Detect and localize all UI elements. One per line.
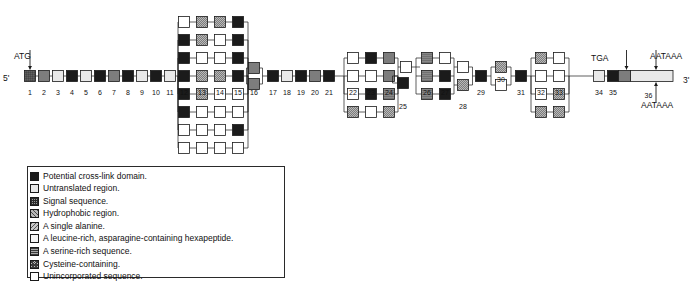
- exon-32-variant-2: [536, 71, 547, 82]
- branch-line: [344, 58, 348, 76]
- exon-number-31: 31: [512, 89, 530, 96]
- exon-12-variant-2: [179, 35, 190, 46]
- exon-25: [398, 78, 409, 89]
- exon-number-30: 30: [492, 76, 510, 83]
- exon-13-variant-2: [197, 35, 208, 46]
- exon-number-13: 13: [193, 89, 211, 96]
- exon-12-variant-3: [179, 53, 190, 64]
- exon-15-variant-1: [233, 17, 244, 28]
- exon-32-variant-1: [536, 53, 547, 64]
- exon-23-variant-1: [366, 53, 377, 64]
- legend-item-untranslated-region: Untranslated region.: [30, 183, 284, 195]
- exon-5: [81, 71, 92, 82]
- branch-line: [531, 58, 536, 76]
- exon-34: [594, 71, 605, 82]
- exon-13-variant-8: [197, 143, 208, 154]
- exon-number-22: 22: [344, 89, 362, 96]
- exon-12-variant-8: [179, 143, 190, 154]
- exon-13-variant-7: [197, 125, 208, 136]
- exon-28-variant-2: [458, 80, 469, 91]
- exon-31: [516, 71, 527, 82]
- exon-24-variant-1: [384, 53, 395, 64]
- exon-24-variant-4: [384, 107, 395, 118]
- exon-13-variant-1: [197, 17, 208, 28]
- exon-13-variant-6: [197, 107, 208, 118]
- exon-27-variant-2: [440, 71, 451, 82]
- legend-item-serine-rich-sequence: A serine-rich sequence.: [30, 246, 284, 258]
- exon-number-33: 33: [550, 89, 568, 96]
- exon-8: [123, 71, 134, 82]
- exon-13-variant-3: [197, 53, 208, 64]
- exon-17: [268, 71, 279, 82]
- branch-line: [565, 58, 570, 76]
- legend-label: Unincorporated sequence.: [43, 272, 143, 281]
- exon-10: [151, 71, 162, 82]
- branch-line: [260, 68, 263, 84]
- exon-number-27: 27: [436, 89, 454, 96]
- legend-item-unincorporated-sequence: Unincorporated sequence.: [30, 271, 284, 283]
- exon-18: [282, 71, 293, 82]
- exon-35: [608, 71, 619, 82]
- branch-line: [491, 67, 496, 76]
- exon-number-24: 24: [380, 89, 398, 96]
- exon-28-variant-1: [458, 62, 469, 73]
- exon-21: [324, 71, 335, 82]
- exon-22-variant-4: [348, 107, 359, 118]
- exon-14-variant-2: [215, 35, 226, 46]
- tga-arrow-icon: [625, 50, 629, 70]
- exon-16-variant-1: [249, 63, 260, 74]
- exon-15-variant-2: [233, 35, 244, 46]
- exon-14-variant-8: [215, 143, 226, 154]
- exon-26-variant-2: [422, 71, 433, 82]
- legend-label: Hydrophobic region.: [43, 209, 119, 218]
- legend-swatch-unincorporated-sequence-icon: [30, 272, 39, 281]
- legend-swatch-single-alanine-icon: [30, 222, 39, 231]
- exon-2: [39, 71, 50, 82]
- aataaa-top-label: AATAAA: [650, 52, 682, 61]
- legend-swatch-leucine-rich-hexapeptide-icon: [30, 234, 39, 243]
- legend-label: Signal sequence.: [43, 197, 108, 206]
- legend-swatch-hydrophobic-region-icon: [30, 209, 39, 218]
- exon-11: [165, 71, 176, 82]
- exon-20: [310, 71, 321, 82]
- legend-swatch-serine-rich-sequence-icon: [30, 247, 39, 256]
- three-prime-label: 3': [683, 76, 689, 85]
- exon-6: [95, 71, 106, 82]
- exon-27-variant-1: [440, 53, 451, 64]
- exon-number-36: 36: [640, 92, 658, 99]
- exon-13-variant-4: [197, 71, 208, 82]
- exon-number-35: 35: [604, 89, 622, 96]
- exon-15-variant-7: [233, 125, 244, 136]
- exon-15-variant-4: [233, 71, 244, 82]
- exon-33-variant-4: [554, 107, 565, 118]
- exon-1: [25, 71, 36, 82]
- exon-14-variant-1: [215, 17, 226, 28]
- legend-item-leucine-rich-hexapeptide: A leucine-rich, asparagine-containing he…: [30, 233, 284, 245]
- legend-swatch-potential-cross-link-domain-icon: [30, 172, 39, 181]
- exon-29: [476, 71, 487, 82]
- branch-line: [395, 58, 399, 76]
- legend-item-cysteine-containing: Cysteine-containing.: [30, 258, 284, 270]
- legend-label: Potential cross-link domain.: [43, 172, 147, 181]
- exon-33-variant-1: [554, 53, 565, 64]
- legend-label: A serine-rich sequence.: [43, 247, 132, 256]
- exon-15-variant-6: [233, 107, 244, 118]
- exon-23-variant-4: [366, 107, 377, 118]
- branch-line: [451, 58, 455, 76]
- exon-12-variant-7: [179, 125, 190, 136]
- aataaa-bottom-label: AATAAA: [641, 101, 673, 110]
- exon-number-32: 32: [532, 89, 550, 96]
- exon-3: [53, 71, 64, 82]
- legend-item-hydrophobic-region: Hydrophobic region.: [30, 208, 284, 220]
- exon-number-26: 26: [418, 89, 436, 96]
- legend-item-signal-sequence: Signal sequence.: [30, 195, 284, 207]
- exon-32-variant-4: [536, 107, 547, 118]
- exon-bridge-unincorporated: [401, 62, 412, 73]
- tga-label: TGA: [591, 54, 608, 63]
- legend-swatch-untranslated-region-icon: [30, 184, 39, 193]
- exon-number-25: 25: [394, 103, 412, 110]
- exon-number-12: 12: [175, 89, 193, 96]
- exon-12-variant-6: [179, 107, 190, 118]
- exon-4: [67, 71, 78, 82]
- exon-14-variant-7: [215, 125, 226, 136]
